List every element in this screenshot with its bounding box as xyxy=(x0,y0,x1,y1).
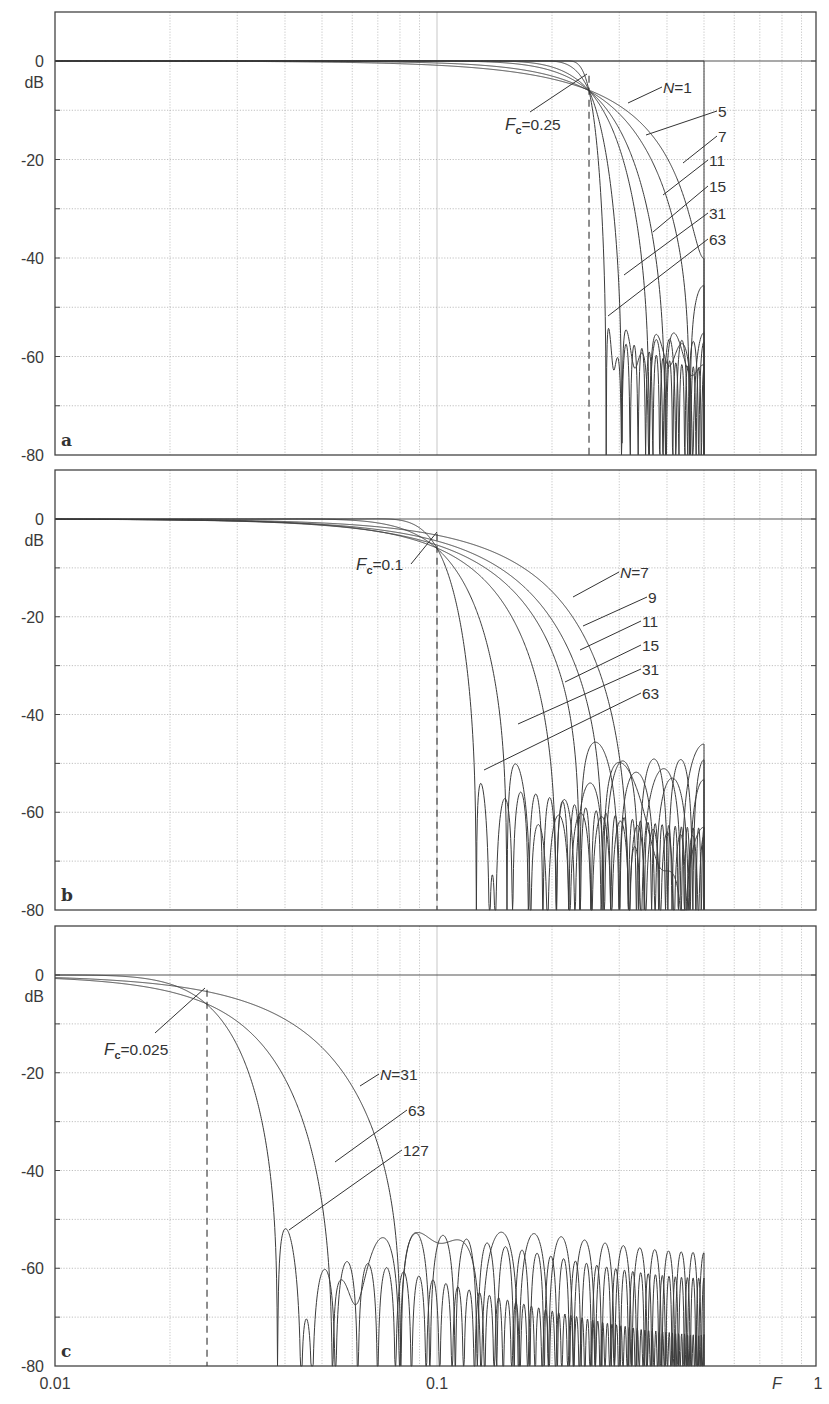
panel-letter-b: b xyxy=(61,885,73,905)
y-tick-label: -40 xyxy=(21,250,44,267)
annotation-layer xyxy=(155,74,717,1366)
series-label: 31 xyxy=(642,661,659,678)
y-tick-label: -80 xyxy=(21,447,44,464)
leader-line xyxy=(580,621,641,650)
series-label: 63 xyxy=(642,685,659,702)
y-tick-label: -20 xyxy=(21,609,44,626)
series-label: N=7 xyxy=(620,564,649,581)
cutoff-label: Fc=0.25 xyxy=(505,115,561,136)
x-axis-label: F xyxy=(772,1375,783,1392)
leader-line xyxy=(565,645,641,682)
cutoff-label: Fc=0.025 xyxy=(104,1040,168,1061)
leader-line xyxy=(583,597,647,626)
series-label: 11 xyxy=(642,613,658,630)
cutoff-label: Fc=0.1 xyxy=(356,555,403,576)
series-label: 63 xyxy=(408,1102,425,1119)
series-label: 15 xyxy=(642,637,659,654)
y-tick-label: 0 xyxy=(35,967,44,984)
leader-line xyxy=(628,87,662,103)
x-tick-label: 1 xyxy=(814,1375,823,1392)
leader-line xyxy=(289,1150,402,1230)
leader-line xyxy=(360,1074,379,1086)
panel-letter-c: c xyxy=(61,1341,71,1361)
y-unit-label: dB xyxy=(24,532,44,549)
series-label: 7 xyxy=(718,128,727,145)
y-tick-label: 0 xyxy=(35,53,44,70)
grid-layer xyxy=(55,12,816,1366)
x-tick-label: 0.1 xyxy=(426,1375,448,1392)
series-label: N=31 xyxy=(380,1066,418,1083)
cutoff-leader-line xyxy=(530,74,587,112)
panel-letter-a: a xyxy=(61,430,72,450)
text-layer: 0-20-40-60-80dBaN=15711153163Fc=0.250-20… xyxy=(21,53,823,1392)
frame-layer xyxy=(55,12,816,1366)
leader-line xyxy=(663,160,708,195)
series-label: 127 xyxy=(403,1142,429,1159)
y-tick-label: -60 xyxy=(21,349,44,366)
y-tick-label: 0 xyxy=(35,511,44,528)
series-label: 15 xyxy=(709,178,726,195)
y-tick-label: -20 xyxy=(21,1065,44,1082)
leader-line xyxy=(608,239,708,316)
series-label: 31 xyxy=(709,205,726,222)
y-unit-label: dB xyxy=(24,74,44,91)
y-tick-label: -60 xyxy=(21,804,44,821)
series-label: 5 xyxy=(718,103,727,120)
leader-line xyxy=(573,572,619,597)
series-label: N=1 xyxy=(663,79,692,96)
panel-frame-a xyxy=(55,12,816,455)
y-unit-label: dB xyxy=(24,988,44,1005)
y-tick-label: -40 xyxy=(21,1163,44,1180)
series-label: 63 xyxy=(709,231,726,248)
cutoff-leader-line xyxy=(411,532,437,564)
y-tick-label: -80 xyxy=(21,1358,44,1375)
y-tick-label: -40 xyxy=(21,707,44,724)
x-tick-label: 0.01 xyxy=(39,1375,70,1392)
leader-line xyxy=(646,111,717,135)
y-tick-label: -20 xyxy=(21,152,44,169)
filter-response-figure: 0-20-40-60-80dBaN=15711153163Fc=0.250-20… xyxy=(0,0,829,1404)
series-label: 9 xyxy=(648,589,657,606)
y-tick-label: -60 xyxy=(21,1260,44,1277)
y-tick-label: -80 xyxy=(21,902,44,919)
series-label: 11 xyxy=(709,152,725,169)
